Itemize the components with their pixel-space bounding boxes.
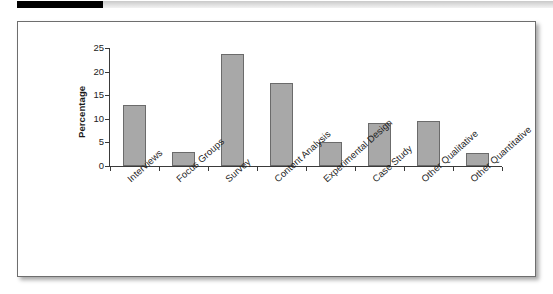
x-axis-tick-label: Survey bbox=[223, 156, 253, 184]
figure-frame: Percentage 0510152025 InterviewsFocus Gr… bbox=[17, 21, 536, 277]
x-axis-tick-label: Focus Groups bbox=[174, 136, 226, 185]
x-axis-tick-label: Interviews bbox=[125, 147, 165, 184]
x-axis-tick-labels: InterviewsFocus GroupsSurveyContent Anal… bbox=[18, 22, 537, 278]
bar-chart: Percentage 0510152025 InterviewsFocus Gr… bbox=[18, 22, 537, 278]
x-axis-tick-label: Case Study bbox=[370, 143, 414, 184]
header-black-bar bbox=[17, 1, 103, 8]
header-band bbox=[0, 0, 553, 9]
